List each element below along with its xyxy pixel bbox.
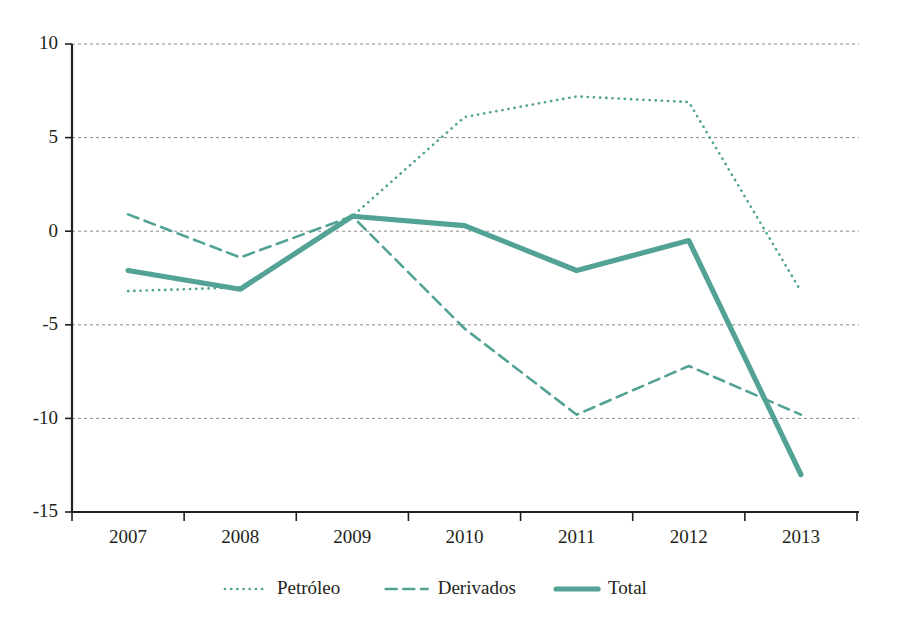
legend-label-derivados[interactable]: Derivados — [438, 577, 516, 598]
y-axis: 1050-5-10-15 — [33, 32, 72, 521]
y-tick-label: 10 — [39, 32, 58, 53]
chart-container: 1050-5-10-15 200720082009201020112012201… — [0, 0, 901, 635]
x-tick-label: 2008 — [221, 526, 259, 547]
y-tick-label: 5 — [49, 126, 59, 147]
x-tick-label: 2012 — [670, 526, 708, 547]
x-tick-label: 2011 — [558, 526, 595, 547]
x-tick-label: 2010 — [446, 526, 484, 547]
gridlines — [72, 44, 859, 418]
series-line-derivados — [128, 214, 801, 414]
x-tick-label: 2009 — [333, 526, 371, 547]
legend-label-petrleo[interactable]: Petróleo — [277, 577, 340, 598]
legend-label-total[interactable]: Total — [608, 577, 647, 598]
y-tick-label: -15 — [33, 500, 58, 521]
chart-legend: PetróleoDerivadosTotal — [225, 577, 647, 598]
y-tick-label: -10 — [33, 407, 58, 428]
x-tick-label: 2013 — [782, 526, 820, 547]
y-tick-label: -5 — [42, 313, 58, 334]
x-axis: 2007200820092010201120122013 — [72, 512, 859, 547]
line-chart: 1050-5-10-15 200720082009201020112012201… — [0, 0, 901, 635]
y-tick-label: 0 — [49, 220, 59, 241]
data-series — [128, 96, 801, 474]
series-line-total — [128, 216, 801, 474]
x-tick-label: 2007 — [109, 526, 147, 547]
